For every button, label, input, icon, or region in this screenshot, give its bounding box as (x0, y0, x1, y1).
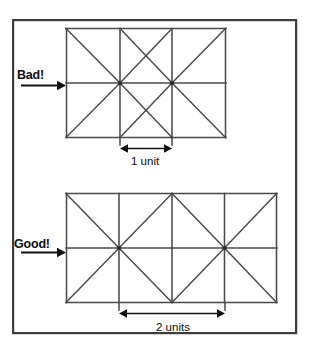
top-dimension-label: 1 unit (131, 156, 159, 168)
bottom-mesh-node-2 (222, 246, 226, 250)
figure-canvas (0, 0, 310, 347)
good-label: Good! (14, 238, 50, 251)
bottom-mesh-node-1 (117, 246, 121, 250)
top-mesh-node-2 (170, 81, 174, 85)
bad-label: Bad! (17, 69, 44, 82)
bottom-dimension-label: 2 units (156, 322, 190, 334)
top-mesh-node-1 (118, 81, 122, 85)
mesh-quality-figure: Bad! Good! 1 unit 2 units (0, 0, 310, 347)
figure-border (13, 20, 296, 333)
